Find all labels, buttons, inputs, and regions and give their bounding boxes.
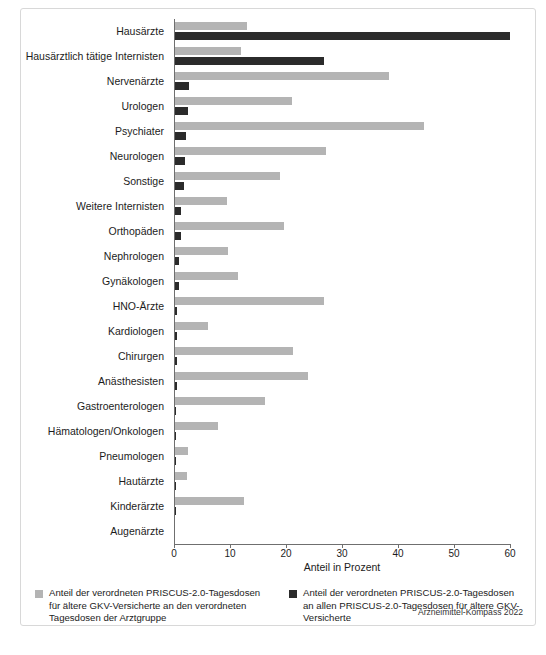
x-tick-label: 50 (448, 548, 459, 559)
category-label: Nervenärzte (21, 69, 169, 94)
category-label: Chirurgen (21, 344, 169, 369)
bar-dark (175, 232, 181, 240)
bar-row (174, 244, 519, 269)
bar-row (174, 194, 519, 219)
bar-row (174, 144, 519, 169)
bar-dark (175, 82, 189, 90)
bar-dark (175, 357, 177, 365)
bar-light (175, 47, 241, 55)
category-axis-labels: HausärzteHausärztlich tätige Internisten… (21, 19, 169, 544)
bar-row (174, 344, 519, 369)
bar-row (174, 219, 519, 244)
category-label: Pneumologen (21, 444, 169, 469)
x-tick-label: 10 (224, 548, 235, 559)
bar-light (175, 222, 284, 230)
bar-light (175, 297, 324, 305)
bar-light (175, 347, 293, 355)
bar-light (175, 497, 244, 505)
legend-swatch-icon-dark (289, 590, 297, 598)
category-label: Nephrologen (21, 244, 169, 269)
category-label: HNO-Ärzte (21, 294, 169, 319)
bar-row (174, 469, 519, 494)
category-label: Weitere Internisten (21, 194, 169, 219)
bar-light (175, 422, 218, 430)
category-label: Gastroenterologen (21, 394, 169, 419)
bar-dark (175, 332, 177, 340)
bar-row (174, 369, 519, 394)
bar-light (175, 172, 280, 180)
legend-swatch-icon-light (35, 590, 43, 598)
category-label: Hausärzte (21, 19, 169, 44)
category-label: Hausärztlich tätige Internisten (21, 44, 169, 69)
bar-light (175, 97, 292, 105)
bar-row (174, 94, 519, 119)
bar-light (175, 147, 326, 155)
bar-dark (175, 482, 176, 490)
bar-row (174, 69, 519, 94)
bar-light (175, 322, 208, 330)
category-label: Psychiater (21, 119, 169, 144)
x-tick-label: 40 (392, 548, 403, 559)
bar-dark (175, 107, 188, 115)
x-axis-ticks: 0102030405060 (174, 544, 519, 560)
bar-dark (175, 32, 510, 40)
bar-row (174, 169, 519, 194)
bar-light (175, 472, 187, 480)
bar-light (175, 122, 424, 130)
x-axis-title: Anteil in Prozent (174, 561, 510, 573)
source-credit: Arzneimittel-Kompass 2022 (418, 607, 523, 617)
bar-row (174, 319, 519, 344)
legend-item-dark: Anteil der verordneten PRISCUS-2.0-Tages… (289, 587, 527, 625)
bar-dark (175, 432, 176, 440)
category-label: Anästhesisten (21, 369, 169, 394)
bar-dark (175, 407, 176, 415)
category-label: Hautärzte (21, 469, 169, 494)
bar-light (175, 197, 227, 205)
bar-light (175, 372, 308, 380)
x-tick-label: 20 (280, 548, 291, 559)
x-tick-label: 0 (171, 548, 177, 559)
bar-dark (175, 382, 177, 390)
bar-dark (175, 157, 185, 165)
x-tick-label: 30 (336, 548, 347, 559)
bar-light (175, 397, 265, 405)
bar-dark (175, 457, 176, 465)
legend-label-dark: Anteil der verordneten PRISCUS-2.0-Tages… (303, 587, 527, 625)
bar-light (175, 272, 238, 280)
bar-row (174, 394, 519, 419)
bar-row (174, 444, 519, 469)
bar-row (174, 519, 519, 544)
category-label: Orthopäden (21, 219, 169, 244)
bar-light (175, 22, 247, 30)
chart-panel: HausärzteHausärztlich tätige Internisten… (20, 8, 536, 626)
bar-light (175, 247, 228, 255)
category-label: Hämatologen/Onkologen (21, 419, 169, 444)
legend: Anteil der verordneten PRISCUS-2.0-Tages… (35, 587, 527, 625)
bar-light (175, 72, 389, 80)
bar-row (174, 269, 519, 294)
category-label: Gynäkologen (21, 269, 169, 294)
x-tick-label: 60 (504, 548, 515, 559)
category-label: Kinderärzte (21, 494, 169, 519)
bar-row (174, 19, 519, 44)
category-label: Neurologen (21, 144, 169, 169)
bar-rows (174, 19, 519, 544)
bar-dark (175, 307, 177, 315)
figure-container: HausärzteHausärztlich tätige Internisten… (0, 0, 546, 655)
category-label: Urologen (21, 94, 169, 119)
plot-area (174, 19, 519, 544)
bar-dark (175, 132, 186, 140)
bar-row (174, 494, 519, 519)
category-label: Augenärzte (21, 519, 169, 544)
bar-dark (175, 207, 181, 215)
bar-dark (175, 57, 324, 65)
bar-dark (175, 282, 179, 290)
bar-row (174, 44, 519, 69)
bar-light (175, 447, 188, 455)
bar-row (174, 294, 519, 319)
bar-dark (175, 257, 179, 265)
bar-row (174, 419, 519, 444)
legend-item-light: Anteil der verordneten PRISCUS-2.0-Tages… (35, 587, 273, 625)
bar-row (174, 119, 519, 144)
legend-label-light: Anteil der verordneten PRISCUS-2.0-Tages… (49, 587, 273, 625)
